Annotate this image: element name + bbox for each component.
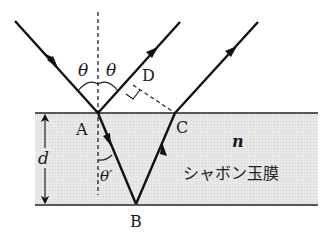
label-point-D: D <box>142 66 155 85</box>
label-soap-film: シャボン玉膜 <box>183 164 279 183</box>
label-thickness-d: d <box>38 148 49 168</box>
thin-film-diagram: θ θ D A C B d θ′ n シャボン玉膜 <box>0 0 332 236</box>
right-angle-mark <box>126 90 140 99</box>
label-theta-refracted: θ′ <box>100 167 113 185</box>
label-refractive-index-n: n <box>232 132 244 151</box>
reflected-ray-2 <box>175 22 258 113</box>
label-theta-left: θ <box>78 60 88 80</box>
label-point-B: B <box>130 212 142 231</box>
wavefront-line-DC <box>133 85 175 113</box>
label-theta-right: θ <box>106 60 116 80</box>
label-point-C: C <box>176 118 188 137</box>
label-point-A: A <box>75 120 88 139</box>
